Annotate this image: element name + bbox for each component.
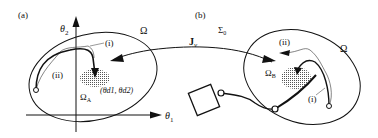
mapping-arrow-b-icon (262, 55, 276, 63)
path-ii-label-b: (ii) (279, 37, 290, 47)
mapping-curve (113, 47, 272, 62)
start-point-a (34, 88, 39, 93)
path-i-leader (90, 43, 104, 46)
panel-b-label: (b) (195, 10, 206, 20)
sigma-label: Σ0 (218, 25, 226, 36)
path-i-label-a: (i) (105, 38, 114, 48)
robot-joint-1 (218, 90, 224, 96)
diagram-canvas: (a) θ2 θ1 Ω ΩA (θd1, θd2) (i) (ii) Jv (b… (0, 0, 378, 138)
panel-a-label: (a) (18, 10, 28, 20)
theta1-label: θ1 (165, 110, 174, 124)
path-i-label-b: (i) (308, 94, 317, 104)
robot-joint-2 (272, 106, 278, 112)
start-point-b (327, 104, 332, 109)
theta2-label: θ2 (60, 23, 69, 37)
path-ii-label-a: (ii) (52, 70, 63, 80)
omega-label-a: Ω (140, 25, 147, 36)
path-i-b-leader (316, 88, 325, 95)
omega-a-label: ΩA (80, 92, 92, 103)
target-point-label: (θd1, θd2) (100, 86, 134, 95)
omega-label-b: Ω (340, 43, 347, 54)
theta2-arrow-icon (73, 16, 80, 27)
mapping-arrow-a-icon (110, 54, 124, 62)
robot-link-1 (221, 93, 275, 109)
omega-b-label: ΩB (265, 68, 276, 79)
robot-base (188, 84, 219, 115)
path-ii-b-arrow-icon (279, 50, 290, 56)
diagram-root: (a) θ2 θ1 Ω ΩA (θd1, θd2) (i) (ii) Jv (b… (0, 0, 378, 138)
theta1-arrow-icon (150, 112, 162, 119)
